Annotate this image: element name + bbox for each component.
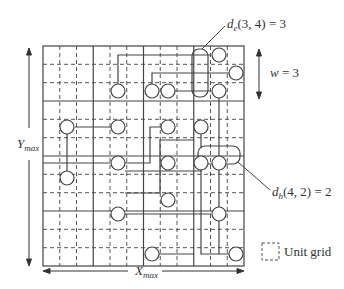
xmax-sub: max [143, 270, 158, 280]
dh-args: (4, 2) = 2 [283, 184, 332, 199]
w-label: w = 3 [270, 65, 299, 81]
ymax-label: Ymax [17, 136, 39, 153]
w-arrow [257, 49, 262, 99]
w-val: = 3 [279, 65, 299, 80]
routing-wires [43, 55, 229, 254]
block-grid-solid [43, 46, 244, 266]
ymax-sub: max [24, 143, 39, 153]
xmax-var: X [135, 263, 143, 278]
de-args: (3, 4) = 3 [238, 16, 287, 31]
w-var: w [270, 65, 279, 80]
dh-label: dh(4, 2) = 2 [272, 184, 332, 201]
unit-grid-legend-label: Unit grid [284, 244, 331, 260]
unit-grid-legend-icon [262, 243, 279, 260]
ymax-arrow [27, 48, 32, 266]
xmax-label: Xmax [135, 263, 158, 280]
de-label: de(3, 4) = 3 [227, 16, 286, 33]
dh-leader [238, 162, 270, 190]
